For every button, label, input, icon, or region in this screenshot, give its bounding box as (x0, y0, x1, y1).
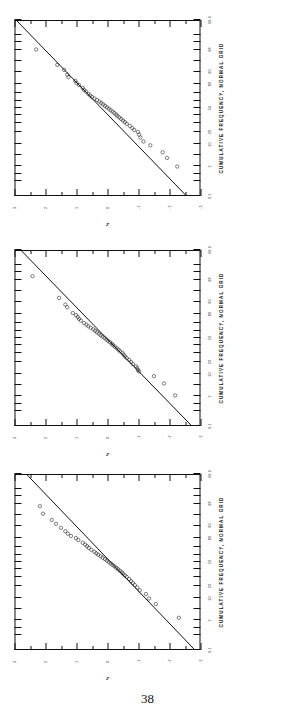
y-axis-tick (45, 20, 46, 27)
x-axis-tick (193, 374, 200, 375)
y-axis-tick (123, 20, 124, 24)
data-point (177, 616, 180, 619)
data-point (173, 394, 176, 397)
y-axis-tick (30, 646, 31, 650)
x-axis-tick-label: 99.9 (207, 470, 211, 478)
y-axis-tick (169, 189, 170, 196)
x-axis-tick (14, 49, 21, 50)
probability-plot-panel-c: 0.1210205080909899.9-3-2-10123 CUMULATIV… (0, 462, 295, 690)
x-axis-tick (193, 495, 200, 496)
y-axis-tick (123, 474, 124, 478)
x-axis-tick (193, 330, 200, 331)
x-axis-tick (193, 92, 200, 93)
y-axis-tick (92, 422, 93, 426)
x-axis-tick (14, 180, 21, 181)
y-axis-tick-label: -1 (136, 659, 140, 663)
y-axis-tick (185, 20, 186, 24)
y-axis-tick (200, 189, 201, 196)
y-axis-tick (123, 192, 124, 196)
data-point (141, 140, 144, 143)
x-axis-tick (14, 627, 21, 628)
x-axis-tick (14, 634, 21, 635)
y-axis-tick (61, 474, 62, 478)
data-point (165, 156, 168, 159)
y-axis-tick-label: 3 (12, 661, 16, 663)
y-axis-tick (14, 20, 15, 27)
y-axis-tick (185, 474, 186, 478)
y-axis-tick (76, 643, 77, 650)
y-axis-tick (45, 643, 46, 650)
x-axis-tick (14, 585, 21, 586)
x-axis-tick-label: 99.9 (207, 246, 211, 254)
y-axis-tick-label: -3 (198, 435, 202, 439)
x-axis-tick (14, 107, 21, 108)
x-axis-tick (14, 301, 21, 302)
y-axis-tick-label: -1 (136, 205, 140, 209)
y-axis-tick (30, 20, 31, 24)
x-axis-tick (193, 131, 200, 132)
y-axis-tick (45, 189, 46, 196)
x-axis-tick (193, 361, 200, 362)
y-axis-tick (14, 643, 15, 650)
x-axis-tick (193, 619, 200, 620)
y-axis-tick (154, 20, 155, 24)
x-axis-tick (14, 60, 21, 61)
y-axis-tick-label: -2 (167, 205, 171, 209)
x-axis-tick (193, 395, 200, 396)
y-axis-tick (76, 419, 77, 426)
y-axis-tick-label: 3 (12, 207, 16, 209)
x-axis-tick (14, 290, 21, 291)
y-axis-tick (123, 422, 124, 426)
x-axis-tick (193, 384, 200, 385)
y-axis-tick (14, 250, 15, 257)
plot-canvas-c (14, 474, 200, 650)
x-axis-tick (14, 546, 21, 547)
x-axis-tick (14, 165, 21, 166)
x-axis-tick (193, 576, 200, 577)
x-axis-tick (14, 337, 21, 338)
x-axis-tick (193, 634, 200, 635)
x-axis-tick (193, 290, 200, 291)
x-axis-tick-label: 10 (207, 596, 211, 600)
y-axis-tick-label: -2 (167, 435, 171, 439)
x-axis-tick-label: 2 (207, 165, 211, 167)
x-axis-tick-label: 20 (207, 584, 211, 588)
y-axis-tick (107, 250, 108, 257)
y-axis-tick (107, 189, 108, 196)
x-axis-tick-label: 90 (207, 523, 211, 527)
y-axis-tick-label: 2 (43, 437, 47, 439)
x-axis-tick (193, 352, 200, 353)
x-axis-tick (14, 34, 21, 35)
y-axis-tick-label: 0 (105, 437, 109, 439)
x-axis-tick (14, 374, 21, 375)
x-axis-tick (193, 561, 200, 562)
y-axis-tick-label: -2 (167, 659, 171, 663)
data-point (130, 126, 133, 129)
y-axis-tick (185, 250, 186, 254)
probability-plot-panel-a: 0.1210205080909899.9-3-2-10123 CUMULATIV… (0, 8, 295, 236)
x-axis-tick (14, 598, 21, 599)
x-axis-tick-label: 20 (207, 130, 211, 134)
data-point (160, 151, 163, 154)
x-axis-tick (193, 144, 200, 145)
y-axis-tick (107, 474, 108, 481)
x-axis-tick (14, 271, 21, 272)
y-axis-tick (154, 422, 155, 426)
y-axis-tick (14, 419, 15, 426)
y-axis-title-c: z (106, 676, 109, 682)
x-axis-tick (193, 344, 200, 345)
x-axis-tick (14, 619, 21, 620)
y-axis-tick (76, 189, 77, 196)
x-axis-tick-label: 50 (207, 336, 211, 340)
data-point (54, 522, 57, 525)
x-axis-tick (193, 649, 200, 650)
plot-stage-c: 0.1210205080909899.9-3-2-10123 CUMULATIV… (0, 462, 295, 690)
plot-area-a: 0.1210205080909899.9-3-2-10123 CUMULATIV… (14, 20, 200, 196)
data-point (71, 311, 74, 314)
x-axis-tick (193, 180, 200, 181)
x-axis-tick (193, 60, 200, 61)
x-axis-tick (14, 83, 21, 84)
x-axis-tick-label: 98 (207, 47, 211, 51)
y-axis-tick (169, 250, 170, 257)
x-axis-tick-label: 80 (207, 82, 211, 86)
